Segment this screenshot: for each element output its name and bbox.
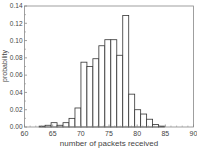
y-tick-label: 0.12 bbox=[10, 20, 23, 27]
x-tick-label: 65 bbox=[49, 130, 57, 137]
histogram-bars bbox=[39, 16, 164, 127]
y-tick-label: 0.14 bbox=[10, 2, 23, 9]
histogram-bar bbox=[69, 118, 75, 127]
histogram-bar bbox=[135, 110, 141, 127]
y-tick-label: 0.04 bbox=[10, 89, 23, 96]
x-tick-label: 60 bbox=[21, 130, 29, 137]
histogram-bar bbox=[81, 62, 87, 127]
histogram-bar bbox=[147, 119, 153, 127]
histogram-bar bbox=[105, 40, 111, 127]
histogram-chart: 0.000.020.040.060.080.100.120.1460657075… bbox=[0, 0, 197, 150]
x-tick-label: 85 bbox=[161, 130, 169, 137]
y-tick-label: 0.06 bbox=[10, 71, 23, 78]
x-tick-label: 80 bbox=[133, 130, 141, 137]
histogram-bar bbox=[117, 55, 123, 127]
histogram-bar bbox=[87, 67, 93, 128]
histogram-bar bbox=[99, 46, 105, 127]
histogram-bar bbox=[93, 59, 99, 127]
x-tick-label: 90 bbox=[190, 130, 197, 137]
histogram-bar bbox=[111, 40, 117, 127]
x-axis-label: number of packets received bbox=[60, 139, 158, 148]
y-tick-label: 0.08 bbox=[10, 54, 23, 61]
y-axis-label: probability bbox=[1, 50, 9, 82]
y-tick-label: 0.02 bbox=[10, 106, 23, 113]
y-tick-label: 0.10 bbox=[10, 37, 23, 44]
histogram-bar bbox=[129, 94, 135, 127]
histogram-bar bbox=[51, 123, 57, 127]
histogram-bar bbox=[141, 114, 147, 127]
histogram-bar bbox=[75, 108, 81, 127]
x-tick-label: 75 bbox=[105, 130, 113, 137]
x-tick-label: 70 bbox=[77, 130, 85, 137]
histogram-bar bbox=[123, 16, 129, 127]
